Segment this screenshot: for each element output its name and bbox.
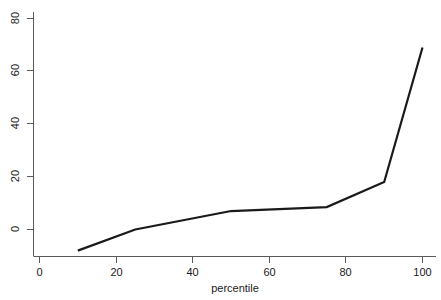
x-tick-label-0: 0 [36,267,42,278]
x-axis-ticks [40,257,423,264]
y-tick-label-0: 0 [10,226,21,232]
plot-area [0,0,441,300]
x-axis-title: percentile [211,283,259,294]
x-tick-label-80: 80 [339,267,351,278]
y-tick-label-60: 60 [10,64,21,76]
y-tick-label-40: 40 [10,117,21,129]
x-tick-label-20: 20 [110,267,122,278]
x-tick-label-60: 60 [263,267,275,278]
data-series-line [78,48,423,251]
x-tick-label-100: 100 [413,267,431,278]
x-tick-label-40: 40 [186,267,198,278]
y-axis-ticks [27,19,34,230]
y-tick-label-20: 20 [10,170,21,182]
y-tick-label-80: 80 [10,12,21,24]
line-chart: 0 20 40 60 80 0 20 40 60 80 100 percenti… [0,0,441,300]
